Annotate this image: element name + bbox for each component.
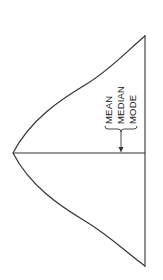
arrowhead-icon bbox=[119, 147, 124, 153]
label-mean: MEAN bbox=[103, 96, 114, 124]
bell-curve bbox=[13, 36, 145, 266]
label-median: MEDIAN bbox=[115, 86, 126, 124]
label-brace bbox=[105, 126, 137, 132]
normal-distribution-diagram: MEAN MEDIAN MODE bbox=[0, 0, 163, 280]
label-mode: MODE bbox=[127, 95, 138, 124]
